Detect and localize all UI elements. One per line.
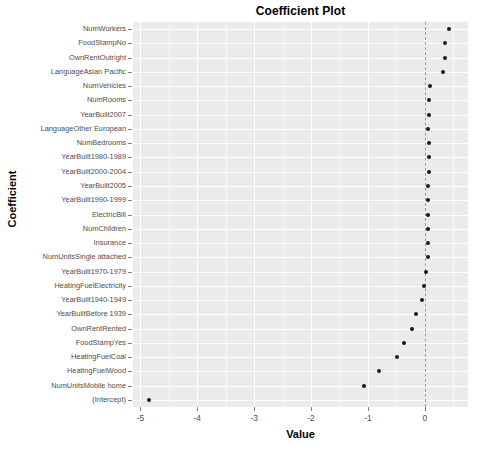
y-tick-label: YearBuilt1970-1979: [61, 268, 126, 276]
data-point: [377, 369, 381, 373]
data-point: [426, 127, 430, 131]
y-tick-mark: [128, 43, 132, 44]
gridline-horizontal-major: [133, 200, 468, 201]
y-tick-mark: [128, 200, 132, 201]
y-tick-label: OwnRentOutright: [69, 54, 126, 62]
data-point: [427, 141, 431, 145]
data-point: [443, 56, 447, 60]
x-tick-label: -1: [348, 413, 388, 423]
x-tick-mark: [425, 407, 426, 411]
y-tick-mark: [128, 243, 132, 244]
data-point: [402, 341, 406, 345]
data-point: [426, 198, 430, 202]
y-tick-label: LanguageOther European: [41, 125, 126, 133]
y-tick-mark: [128, 115, 132, 116]
data-point: [427, 98, 431, 102]
y-tick-mark: [128, 86, 132, 87]
gridline-horizontal-major: [133, 115, 468, 116]
gridline-horizontal-major: [133, 371, 468, 372]
gridline-horizontal-major: [133, 143, 468, 144]
gridline-horizontal-major: [133, 43, 468, 44]
y-tick-label: OwnRentRented: [71, 325, 126, 333]
gridline-horizontal-major: [133, 400, 468, 401]
coefficient-plot-figure: Coefficient Plot Coefficient NumWorkersF…: [0, 0, 478, 454]
data-point: [427, 170, 431, 174]
gridline-horizontal-major: [133, 386, 468, 387]
gridline-horizontal-major: [133, 157, 468, 158]
data-point: [420, 298, 424, 302]
y-tick-mark: [128, 229, 132, 230]
gridline-horizontal-major: [133, 329, 468, 330]
y-tick-mark: [128, 314, 132, 315]
x-tick-label: -5: [120, 413, 160, 423]
gridline-horizontal-major: [133, 172, 468, 173]
gridline-horizontal-major: [133, 100, 468, 101]
gridline-horizontal-major: [133, 86, 468, 87]
data-point: [426, 241, 430, 245]
plot-title: Coefficient Plot: [133, 4, 468, 18]
y-tick-mark: [128, 286, 132, 287]
gridline-horizontal-major: [133, 229, 468, 230]
gridline-horizontal-major: [133, 215, 468, 216]
y-tick-label: NumUnitsMobile home: [51, 382, 126, 390]
y-tick-label: YearBuilt2000-2004: [61, 168, 126, 176]
data-point: [362, 384, 366, 388]
x-tick-label: -4: [177, 413, 217, 423]
data-point: [422, 284, 426, 288]
y-tick-label: (Intercept): [92, 396, 126, 404]
y-tick-mark: [128, 215, 132, 216]
y-tick-label: YearBuiltBefore 1939: [56, 310, 126, 318]
x-tick-label: 0: [405, 413, 445, 423]
y-tick-label: YearBuilt2007: [80, 111, 126, 119]
y-tick-label: YearBuilt2005: [80, 182, 126, 190]
y-tick-label: FoodStampNo: [78, 39, 126, 47]
gridline-horizontal-major: [133, 272, 468, 273]
gridline-horizontal-major: [133, 58, 468, 59]
y-tick-label: NumUnitsSingle attached: [43, 253, 126, 261]
gridline-horizontal-major: [133, 357, 468, 358]
y-tick-label: NumBedrooms: [77, 139, 126, 147]
y-tick-mark: [128, 300, 132, 301]
gridline-horizontal-major: [133, 186, 468, 187]
data-point: [426, 213, 430, 217]
y-tick-label: NumVehicles: [83, 82, 126, 90]
y-tick-label: HeatingFuelElectricity: [55, 282, 126, 290]
y-tick-mark: [128, 400, 132, 401]
data-point: [426, 255, 430, 259]
y-tick-mark: [128, 371, 132, 372]
data-point: [441, 70, 445, 74]
y-tick-mark: [128, 58, 132, 59]
x-tick-mark: [368, 407, 369, 411]
y-tick-label: ElectricBill: [92, 211, 126, 219]
gridline-horizontal-major: [133, 286, 468, 287]
y-tick-label: NumChildren: [83, 225, 126, 233]
gridline-horizontal-major: [133, 243, 468, 244]
y-tick-label: YearBuilt1940-1949: [61, 296, 126, 304]
gridline-horizontal-major: [133, 72, 468, 73]
gridline-horizontal-major: [133, 300, 468, 301]
y-tick-mark: [128, 100, 132, 101]
data-point: [426, 184, 430, 188]
y-tick-mark: [128, 186, 132, 187]
y-tick-mark: [128, 129, 132, 130]
x-tick-label: -2: [291, 413, 331, 423]
y-tick-mark: [128, 72, 132, 73]
y-tick-label: YearBuilt1990-1999: [61, 196, 126, 204]
y-tick-label: YearBuilt1980-1989: [61, 153, 126, 161]
gridline-horizontal-major: [133, 343, 468, 344]
y-tick-mark: [128, 143, 132, 144]
y-tick-mark: [128, 343, 132, 344]
x-tick-label: -3: [234, 413, 274, 423]
data-point: [428, 84, 432, 88]
y-tick-label: LanguageAsian Pacific: [51, 68, 126, 76]
y-tick-mark: [128, 357, 132, 358]
x-tick-mark: [140, 407, 141, 411]
y-tick-mark: [128, 257, 132, 258]
y-tick-mark: [128, 329, 132, 330]
y-tick-mark: [128, 386, 132, 387]
gridline-horizontal-major: [133, 314, 468, 315]
x-tick-mark: [311, 407, 312, 411]
data-point: [427, 113, 431, 117]
data-point: [410, 327, 414, 331]
y-tick-label: FoodStampYes: [76, 339, 126, 347]
